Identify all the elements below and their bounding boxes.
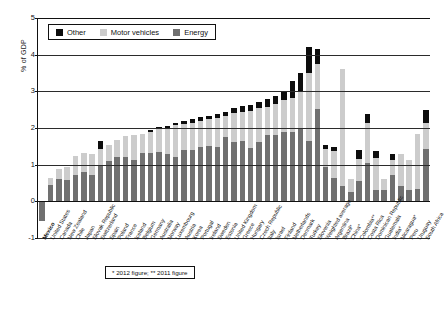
bar-segment-motor-vehicles <box>98 149 104 166</box>
plot-area: -1012345 <box>37 18 429 238</box>
bar-group <box>356 150 362 202</box>
bar-segment-energy <box>140 153 146 201</box>
y-tick-label--1: -1 <box>28 234 35 242</box>
bar-segment-motor-vehicles <box>373 158 379 190</box>
bar-segment-motor-vehicles <box>165 128 171 154</box>
bar-group <box>415 134 421 202</box>
bar-segment-energy <box>206 146 212 202</box>
bar-group <box>331 147 337 202</box>
bar-group <box>98 141 104 202</box>
bar-segment-energy <box>423 149 429 201</box>
bar-group <box>198 117 204 201</box>
bar-group <box>140 134 146 201</box>
bar-segment-other <box>306 47 312 73</box>
bar-segment-motor-vehicles <box>240 112 246 141</box>
bar-segment-energy <box>64 180 70 201</box>
bar-segment-motor-vehicles <box>173 125 179 157</box>
bar-segment-energy <box>215 147 221 201</box>
y-tick-mark-1 <box>35 165 38 166</box>
bar-segment-energy <box>365 163 371 202</box>
bar-group <box>173 123 179 201</box>
bar-group <box>73 156 79 201</box>
bar-segment-energy <box>106 161 112 201</box>
bar-segment-energy <box>381 190 387 201</box>
bar-group <box>131 135 137 202</box>
gridline-4 <box>38 55 430 56</box>
bar-group <box>306 47 312 201</box>
bar-segment-motor-vehicles <box>223 116 229 137</box>
bar-segment-other <box>265 99 271 107</box>
bar-segment-energy <box>273 135 279 201</box>
bar-segment-motor-vehicles <box>248 111 254 148</box>
y-tick-label-3: 3 <box>31 88 35 96</box>
bar-group <box>223 112 229 202</box>
legend-item-other: Other <box>56 28 86 37</box>
bar-segment-energy <box>306 141 312 202</box>
bar-group <box>114 140 120 201</box>
bar-segment-energy <box>256 142 262 201</box>
bar-segment-energy <box>48 185 54 202</box>
bar-group <box>406 160 412 201</box>
bar-segment-motor-vehicles <box>81 153 87 172</box>
bar-group <box>348 179 354 201</box>
bar-segment-energy <box>356 181 362 201</box>
bar-segment-energy <box>39 201 45 221</box>
bar-segment-energy <box>290 132 296 201</box>
bar-segment-motor-vehicles <box>156 129 162 152</box>
bar-segment-motor-vehicles <box>365 123 371 163</box>
bar-segment-motor-vehicles <box>315 64 321 109</box>
legend-swatch-other <box>56 29 63 36</box>
gridline-5 <box>38 18 430 19</box>
bar-group <box>123 136 129 201</box>
bar-segment-energy <box>148 153 154 201</box>
bar-group <box>423 110 429 201</box>
bar-group <box>190 119 196 201</box>
y-tick-mark-2 <box>35 128 38 129</box>
bar-group <box>340 69 346 201</box>
bar-segment-motor-vehicles <box>256 108 262 142</box>
bar-segment-energy <box>240 141 246 202</box>
bar-group <box>265 99 271 201</box>
legend-swatch-motor-vehicles <box>100 29 107 36</box>
y-tick-label-5: 5 <box>31 14 35 22</box>
bar-segment-motor-vehicles <box>198 121 204 147</box>
bar-group <box>240 106 246 202</box>
bar-segment-motor-vehicles <box>298 92 304 129</box>
y-axis-title: % of GDP <box>20 21 27 91</box>
bar-segment-energy <box>198 147 204 201</box>
bar-segment-motor-vehicles <box>381 179 387 190</box>
bar-segment-motor-vehicles <box>356 159 362 181</box>
bar-group <box>390 154 396 201</box>
bar-segment-energy <box>131 160 137 201</box>
bar-segment-other <box>298 73 304 92</box>
bar-segment-energy <box>181 150 187 201</box>
bar-segment-motor-vehicles <box>390 160 396 175</box>
bar-group <box>248 105 254 201</box>
y-tick-mark-0 <box>35 201 38 202</box>
bar-group <box>290 81 296 201</box>
x-axis-labels: MexicoUnited StatesCanadaNew ZealandChil… <box>37 238 429 308</box>
bar-segment-energy <box>340 186 346 201</box>
bar-segment-other <box>281 91 287 100</box>
bar-segment-motor-vehicles <box>106 145 112 162</box>
bar-segment-other <box>290 81 296 98</box>
bar-group <box>148 130 154 201</box>
bar-group <box>48 178 54 201</box>
bar-group <box>256 102 262 201</box>
bar-group <box>281 91 287 201</box>
y-tick-mark-4 <box>35 55 38 56</box>
bar-segment-other <box>423 110 429 122</box>
gridline-0 <box>38 201 430 202</box>
legend-item-motor-vehicles: Motor vehicles <box>100 28 159 37</box>
bar-segment-other <box>273 96 279 104</box>
bar-segment-motor-vehicles <box>415 134 421 189</box>
bar-segment-motor-vehicles <box>273 104 279 135</box>
bar-segment-energy <box>248 148 254 201</box>
bar-segment-other <box>98 141 104 149</box>
bar-segment-other <box>315 49 321 64</box>
bar-group <box>165 126 171 202</box>
bar-group <box>273 96 279 201</box>
legend-label-other: Other <box>67 28 86 37</box>
y-tick-label-0: 0 <box>31 198 35 206</box>
